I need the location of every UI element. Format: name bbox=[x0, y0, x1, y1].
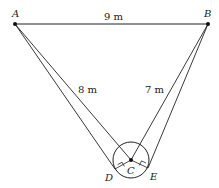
point-c bbox=[129, 158, 133, 162]
measure-bc: 7 m bbox=[145, 84, 165, 95]
point-a bbox=[13, 22, 17, 26]
label-b: B bbox=[203, 8, 211, 19]
geometry-diagram: A B C D E 9 m 8 m 7 m bbox=[0, 0, 219, 188]
tangent-be bbox=[148, 24, 208, 168]
label-e: E bbox=[149, 171, 158, 182]
label-a: A bbox=[11, 8, 19, 19]
segment-ac bbox=[15, 24, 131, 160]
tangent-ad bbox=[15, 24, 115, 169]
segment-bc bbox=[131, 24, 208, 160]
label-c: C bbox=[127, 165, 135, 176]
point-b bbox=[206, 22, 210, 26]
measure-ac: 8 m bbox=[78, 84, 98, 95]
label-d: D bbox=[104, 172, 113, 183]
measure-ab: 9 m bbox=[104, 11, 124, 22]
